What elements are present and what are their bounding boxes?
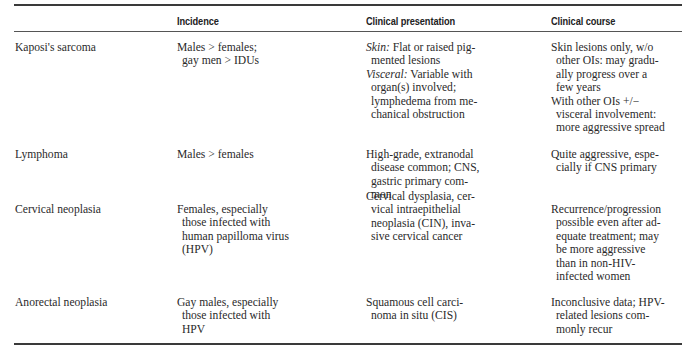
incidence-cell: Males > females; gay men > IDUs [177,41,259,68]
header-clinical-presentation: Clinical presentation [366,15,455,27]
condition-cell: Anorectal neoplasia [15,296,107,309]
presentation-cell: Cervical dysplasia, cer- vical intraepit… [366,190,475,244]
incidence-cell: Gay males, especially those infected wit… [177,296,278,336]
presentation-cell: Skin: Flat or raised pig- mented lesions… [366,41,477,121]
course-cell: Recurrence/progression possible even aft… [551,203,661,283]
condition-cell: Cervical neoplasia [15,203,101,216]
table-top-rule [14,4,682,6]
incidence-cell: Females, especially those infected with … [177,203,289,257]
header-clinical-course: Clinical course [551,15,615,27]
condition-cell: Lymphoma [15,148,68,161]
course-cell: Inconclusive data; HPV- related lesions … [551,296,665,336]
skin-label: Skin: [366,41,390,54]
condition-cell: Kaposi's sarcoma [15,41,96,54]
presentation-cell: Squamous cell carci- noma in situ (CIS) [366,296,463,323]
incidence-cell: Males > females [177,148,254,161]
header-incidence: Incidence [177,15,219,27]
course-cell: Quite aggressive, espe- cially if CNS pr… [551,148,659,175]
visceral-label: Visceral: [366,68,408,81]
table-bottom-rule [14,343,682,345]
header-rule [14,31,682,32]
course-cell: Skin lesions only, w/o other OIs: may gr… [551,41,665,135]
